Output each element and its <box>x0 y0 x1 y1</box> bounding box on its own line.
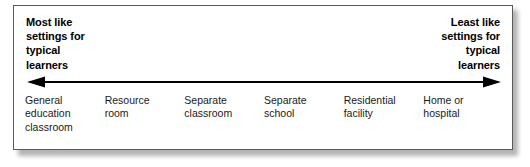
placement-label-home-or-hospital: Home or hospital <box>423 94 503 134</box>
continuum-anchor-band: Most like settings for typical learners … <box>14 6 512 78</box>
figure-container: Most like settings for typical learners … <box>0 0 530 167</box>
placement-labels-row: General education classroom Resource roo… <box>25 94 503 134</box>
arrow-svg <box>25 72 503 92</box>
double-headed-arrow-icon <box>25 72 503 92</box>
arrow-head-right <box>483 76 501 87</box>
placement-label-general-education-classroom: General education classroom <box>25 94 105 134</box>
placement-label-residential-facility: Residential facility <box>344 94 424 134</box>
placement-label-separate-classroom: Separate classroom <box>184 94 264 134</box>
arrow-head-left <box>27 76 45 87</box>
placement-label-separate-school: Separate school <box>264 94 344 134</box>
anchor-label-most-like: Most like settings for typical learners <box>26 15 85 72</box>
figure-frame: Most like settings for typical learners … <box>13 5 513 150</box>
anchor-label-least-like: Least like settings for typical learners <box>441 15 500 72</box>
placement-label-resource-room: Resource room <box>105 94 185 134</box>
